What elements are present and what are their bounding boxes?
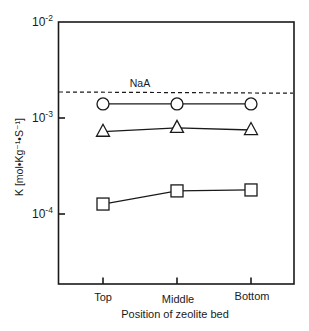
series-layer: [97, 98, 258, 210]
circle-marker-icon: [245, 98, 257, 110]
x-tick-label-bottom: Bottom: [235, 290, 270, 302]
circle-marker-icon: [97, 98, 109, 110]
y-tick-label-1e-4: 10-4: [32, 205, 53, 221]
circle-marker-icon: [171, 98, 183, 110]
naa-label: NaA: [130, 77, 150, 89]
plot-frame: [59, 22, 295, 284]
x-axis-label: Position of zeolite bed: [121, 308, 229, 320]
y-axis-label: K [mol•Kg⁻¹•S⁻¹]: [13, 118, 25, 196]
square-marker-icon: [171, 185, 183, 197]
x-tick-label-top: Top: [94, 291, 112, 303]
y-axis-ticks: [59, 118, 66, 214]
square-series: [97, 184, 257, 210]
x-tick-label-middle: Middle: [162, 293, 194, 305]
naa-reference-line: [59, 92, 293, 93]
square-marker-icon: [245, 184, 257, 196]
y-tick-label-1e-2: 10-2: [32, 13, 53, 29]
circle-series: [97, 98, 257, 110]
log-line-chart: 10-2 10-3 10-4 K [mol•Kg⁻¹•S⁻¹] Top Midd…: [0, 0, 309, 331]
triangle-marker-icon: [171, 120, 184, 132]
triangle-series: [97, 120, 258, 136]
square-marker-icon: [97, 198, 109, 210]
y-tick-label-1e-3: 10-3: [32, 109, 53, 125]
x-axis-ticks: [103, 278, 251, 285]
chart: 10-2 10-3 10-4 K [mol•Kg⁻¹•S⁻¹] Top Midd…: [0, 0, 309, 331]
triangle-marker-icon: [245, 123, 258, 135]
triangle-marker-icon: [97, 124, 110, 136]
